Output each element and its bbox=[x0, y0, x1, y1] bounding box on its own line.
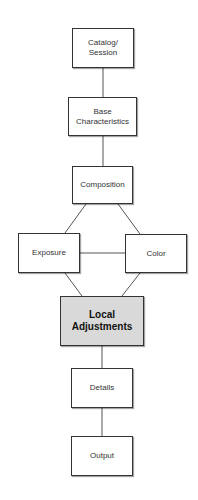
node-exposure: Exposure bbox=[18, 233, 80, 273]
node-label: Details bbox=[90, 383, 114, 393]
node-output: Output bbox=[71, 436, 133, 476]
edge-composition-exposure bbox=[65, 204, 86, 233]
node-label: Composition bbox=[80, 180, 124, 190]
node-label: Local Adjustments bbox=[72, 309, 133, 333]
node-local-adjustments: Local Adjustments bbox=[60, 296, 144, 346]
edge-composition-color bbox=[118, 204, 140, 234]
node-color: Color bbox=[125, 234, 187, 273]
node-details: Details bbox=[71, 368, 133, 408]
node-label: Base Characteristics bbox=[76, 107, 129, 127]
node-base-characteristics: Base Characteristics bbox=[68, 97, 137, 136]
node-label: Exposure bbox=[32, 248, 66, 258]
node-composition: Composition bbox=[72, 166, 133, 204]
node-label: Catalog/ Session bbox=[88, 38, 118, 58]
node-label: Output bbox=[90, 451, 114, 461]
node-label: Color bbox=[146, 249, 165, 259]
edge-exposure-local bbox=[65, 273, 82, 296]
node-catalog-session: Catalog/ Session bbox=[72, 28, 134, 68]
edge-color-local bbox=[122, 273, 140, 296]
